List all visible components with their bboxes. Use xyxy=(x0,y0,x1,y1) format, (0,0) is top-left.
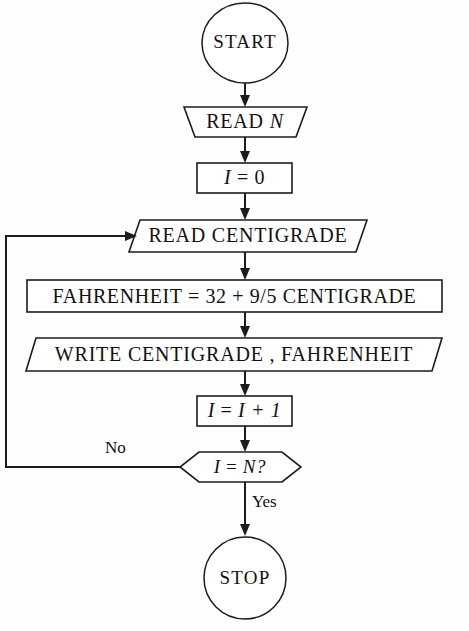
init-i-operator: = xyxy=(237,166,249,188)
arrowhead-stop xyxy=(240,524,250,536)
arrowhead-write xyxy=(240,326,250,338)
arrowhead-decision xyxy=(240,440,250,452)
read-n-variable: N xyxy=(270,110,284,132)
arrowhead-read-centigrade xyxy=(240,208,250,220)
decision-rhs: N? xyxy=(243,456,266,477)
read-n-label: READ N xyxy=(185,110,305,133)
flowchart-canvas: START READ N I = 0 READ CENTIGRADE FAHRE… xyxy=(0,0,469,631)
increment-i-lhs: I xyxy=(208,399,215,421)
read-centigrade-label: READ CENTIGRADE xyxy=(133,224,363,247)
init-i-rhs: 0 xyxy=(254,166,265,188)
stop-terminal-label: STOP xyxy=(195,567,295,589)
write-values-label: WRITE CENTIGRADE , FAHRENHEIT xyxy=(30,343,438,366)
read-n-keyword: READ xyxy=(206,110,264,132)
flowchart-graphics xyxy=(0,0,469,631)
init-i-label: I = 0 xyxy=(197,166,292,189)
arrowhead-init-i xyxy=(240,151,250,163)
increment-i-rhs: I + 1 xyxy=(238,399,281,421)
decision-lhs: I xyxy=(214,456,221,477)
arrowhead-increment xyxy=(240,384,250,396)
increment-i-label: I = I + 1 xyxy=(197,399,292,422)
compute-fahrenheit-label: FAHRENHEIT = 32 + 9/5 CENTIGRADE xyxy=(30,285,439,308)
increment-i-operator: = xyxy=(221,399,233,421)
arrowhead-read-n xyxy=(240,95,250,107)
decision-label: I = N? xyxy=(190,456,290,478)
edge-label-yes: Yes xyxy=(252,492,277,512)
decision-operator: = xyxy=(226,456,237,477)
arrowhead-compute xyxy=(240,268,250,280)
edge-label-no: No xyxy=(105,438,126,458)
start-terminal-label: START xyxy=(195,31,295,53)
init-i-lhs: I xyxy=(224,166,231,188)
